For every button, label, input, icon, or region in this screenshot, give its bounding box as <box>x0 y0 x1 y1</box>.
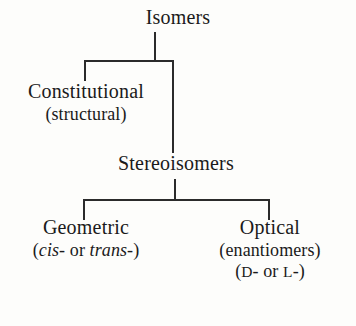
node-geometric: Geometric (cis- or trans-) <box>4 216 168 261</box>
node-optical: Optical (enantiomers) (D- or L-) <box>184 216 356 282</box>
node-constitutional-label: Constitutional <box>0 80 172 104</box>
node-isomers: Isomers <box>0 6 356 30</box>
geometric-conjunction: - or <box>59 240 90 260</box>
geometric-trans: trans <box>90 240 128 260</box>
optical-paren-close: -) <box>293 261 305 281</box>
node-constitutional-sublabel: (structural) <box>0 104 172 125</box>
node-constitutional: Constitutional (structural) <box>0 80 172 125</box>
node-stereoisomers-label: Stereoisomers <box>78 152 274 176</box>
optical-conjunction: - or <box>253 261 284 281</box>
connector-arm-constitutional <box>84 60 86 81</box>
optical-l-config: L <box>283 263 293 280</box>
node-optical-label: Optical <box>184 216 356 240</box>
connector-bottom-crossbar <box>83 199 270 201</box>
node-isomers-label: Isomers <box>0 6 356 30</box>
optical-d-config: D <box>241 263 252 280</box>
node-optical-sublabel2: (D- or L-) <box>184 261 356 282</box>
connector-top-crossbar <box>84 60 174 62</box>
node-optical-sublabel: (enantiomers) <box>184 240 356 261</box>
node-geometric-label: Geometric <box>4 216 168 240</box>
node-stereoisomers: Stereoisomers <box>78 152 274 176</box>
connector-isomers-stem <box>154 32 156 61</box>
isomer-classification-diagram: Isomers Constitutional (structural) Ster… <box>0 0 356 326</box>
geometric-cis: cis <box>39 240 59 260</box>
connector-stereoisomers-stem <box>174 179 176 201</box>
node-geometric-sublabel: (cis- or trans-) <box>4 240 168 261</box>
geometric-paren-close: -) <box>127 240 139 260</box>
connector-arm-stereoisomers <box>172 60 174 153</box>
